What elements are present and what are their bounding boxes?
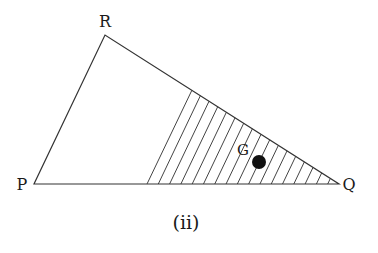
centroid-point-g bbox=[252, 155, 266, 169]
hatch-line bbox=[283, 156, 296, 184]
figure-caption: (ii) bbox=[173, 211, 200, 233]
centroid-label-g: G bbox=[237, 141, 249, 159]
hatching bbox=[158, 96, 330, 184]
hatch-line bbox=[328, 178, 331, 184]
shaded-region-boundary bbox=[147, 90, 192, 184]
hatch-line bbox=[192, 112, 226, 184]
hatch-line bbox=[305, 167, 313, 184]
hatch-line bbox=[294, 162, 305, 184]
vertex-label-r: R bbox=[99, 12, 112, 31]
hatch-line bbox=[181, 107, 218, 184]
vertex-label-q: Q bbox=[342, 175, 355, 194]
triangle-diagram: R P Q G (ii) bbox=[0, 0, 378, 253]
hatch-line bbox=[316, 173, 321, 184]
hatch-line bbox=[158, 96, 200, 184]
vertex-label-p: P bbox=[17, 175, 28, 194]
hatch-line bbox=[170, 101, 209, 184]
